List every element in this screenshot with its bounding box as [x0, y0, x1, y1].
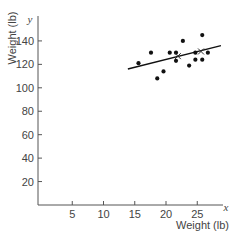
y-axis-variable: y — [27, 13, 33, 25]
data-points — [136, 33, 210, 81]
fit-line — [128, 46, 221, 69]
data-point — [161, 69, 165, 73]
data-point — [200, 33, 204, 37]
x-tick-label: 15 — [129, 208, 141, 220]
y-tick-label: 100 — [16, 82, 34, 94]
y-tick-label: 80 — [22, 105, 34, 117]
data-point — [149, 51, 153, 55]
y-tick-label: 140 — [16, 35, 34, 47]
axis-labels: yxWeight (lb)Weight (lb) — [6, 12, 229, 231]
x-tick-label: 5 — [69, 208, 75, 220]
data-point — [181, 39, 185, 43]
data-point — [155, 76, 159, 80]
regression-line — [128, 46, 221, 69]
axes — [38, 16, 223, 205]
data-point — [193, 51, 197, 55]
data-point — [136, 61, 140, 65]
y-axis-title: Weight (lb) — [6, 12, 18, 65]
data-point — [168, 51, 172, 55]
x-axis-title: Weight (lb) — [176, 219, 229, 231]
x-tick-label: 10 — [97, 208, 109, 220]
data-point — [187, 63, 191, 67]
data-point — [206, 51, 210, 55]
y-tick-label: 120 — [16, 58, 34, 70]
data-point — [193, 58, 197, 62]
scatter-chart: 51015202520406080100120140 yxWeight (lb)… — [0, 0, 243, 241]
x-axis-variable: x — [223, 201, 229, 213]
y-tick-label: 40 — [22, 152, 34, 164]
y-tick-label: 20 — [22, 176, 34, 188]
x-tick-label: 20 — [160, 208, 172, 220]
data-point — [200, 58, 204, 62]
y-tick-label: 60 — [22, 129, 34, 141]
data-point — [174, 59, 178, 63]
